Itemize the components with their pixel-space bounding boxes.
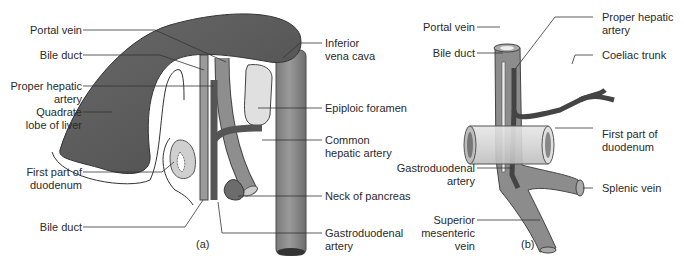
label-first-part-duodenum-a: First part of [26, 166, 82, 179]
bile-duct-shape [200, 55, 208, 200]
label-gastroduodenal-artery-b: Gastroduodenal [397, 162, 475, 175]
label-first-part-duodenum-a-2: duodenum [30, 179, 82, 192]
label-common-hepatic-artery-2: hepatic artery [325, 147, 392, 160]
label-first-part-duodenum-b: First part of [602, 128, 658, 141]
label-gastroduodenal-artery-a: Gastroduodenal [325, 227, 403, 240]
label-bile-duct-b: Bile duct [433, 47, 475, 60]
label-common-hepatic-artery: Common [325, 134, 370, 147]
label-coeliac-trunk: Coeliac trunk [602, 49, 666, 62]
label-splenic-vein: Splenic vein [602, 182, 661, 195]
caption-b: (b) [521, 238, 534, 250]
label-superior-mesenteric-vein-3: vein [455, 240, 475, 253]
label-inferior-vena-cava: Inferior [325, 37, 359, 50]
panel-a [52, 14, 322, 256]
duodenum-b-shape [470, 126, 548, 164]
label-quadrate-lobe: Quadrate [36, 106, 82, 119]
label-proper-hepatic-artery-b-2: artery [602, 24, 630, 37]
label-bile-duct-a-bottom: Bile duct [40, 221, 82, 234]
inferior-vena-cava-shape [276, 50, 306, 255]
label-superior-mesenteric-vein: Superior [433, 214, 475, 227]
label-inferior-vena-cava-2: vena cava [325, 50, 375, 63]
epiploic-foramen-shape [245, 65, 272, 126]
label-quadrate-lobe-2: lobe of liver [26, 119, 82, 132]
label-first-part-duodenum-b-2: duodenum [602, 141, 654, 154]
label-bile-duct-a-top: Bile duct [40, 49, 82, 62]
label-proper-hepatic-artery-a: Proper hepatic [10, 80, 82, 93]
label-proper-hepatic-artery-b: Proper hepatic [602, 11, 674, 24]
panel-b [464, 17, 614, 253]
label-portal-vein-a: Portal vein [30, 24, 82, 37]
label-gastroduodenal-artery-a-2: artery [325, 240, 353, 253]
label-portal-vein-b: Portal vein [423, 21, 475, 34]
caption-a: (a) [196, 238, 209, 250]
label-superior-mesenteric-vein-2: mesenteric [421, 227, 475, 240]
anatomy-figure: Portal vein Bile duct Proper hepatic art… [0, 0, 684, 258]
label-gastroduodenal-artery-b-2: artery [447, 175, 475, 188]
label-proper-hepatic-artery-a-2: artery [54, 93, 82, 106]
label-epiploic-foramen: Epiploic foramen [325, 102, 407, 115]
label-neck-of-pancreas: Neck of pancreas [325, 190, 411, 203]
